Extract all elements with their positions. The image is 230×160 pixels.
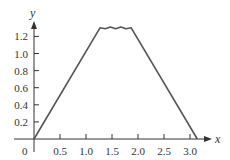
x-axis-arrow-icon [204,136,212,142]
axes [14,21,212,152]
y-tick-label: 0.6 [14,82,28,94]
series-line [34,27,197,139]
x-tick-label: 2.5 [157,145,171,157]
x-tick-label: 0.5 [53,145,67,157]
x-axis-label: x [214,132,221,146]
x-tick-label: 1.5 [105,145,119,157]
x-tick-label: 1.0 [79,145,93,157]
chart: 0.51.01.52.02.53.00.20.40.60.81.01.2 x y… [0,0,230,160]
y-tick-label: 1.2 [14,30,28,42]
y-tick-label: 1.0 [14,48,28,60]
x-tick-label: 3.0 [183,145,197,157]
origin-label: 0 [22,145,28,157]
y-tick-label: 0.2 [14,116,28,128]
y-axis-label: y [29,6,36,20]
y-tick-label: 0.8 [14,65,28,77]
y-axis-arrow-icon [31,21,37,29]
y-tick-label: 0.4 [14,99,28,111]
x-tick-label: 2.0 [131,145,145,157]
